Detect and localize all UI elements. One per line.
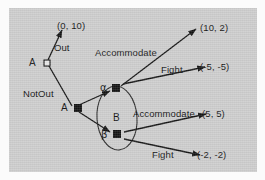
edge-notout	[49, 66, 72, 106]
action-notout: NotOut	[23, 89, 54, 99]
payoff-fight-top: (-5, -5)	[200, 62, 229, 72]
edge-a-to-alpha	[79, 91, 110, 105]
screenshot-canvas: (0, 10) Out A NotOut A α β B Accommodate…	[0, 0, 265, 180]
action-fight-top: Fight	[161, 65, 183, 75]
node-alpha[interactable]	[112, 84, 120, 92]
payoff-accommodate-bottom: (5, 5)	[202, 109, 225, 119]
node-label-beta: β	[101, 130, 107, 140]
action-accommodate-bottom: Accommodate	[133, 109, 195, 119]
node-a-second[interactable]	[74, 104, 82, 112]
player-label-a-second: A	[61, 103, 68, 113]
player-label-a-root: A	[29, 58, 36, 68]
node-a-root[interactable]	[44, 60, 50, 66]
node-beta[interactable]	[113, 130, 121, 138]
action-fight-bottom: Fight	[152, 150, 174, 160]
payoff-out: (0, 10)	[57, 21, 85, 31]
figure-plate: (0, 10) Out A NotOut A α β B Accommodate…	[9, 8, 257, 172]
payoff-fight-bottom: (-2, -2)	[197, 150, 226, 160]
action-accommodate-top: Accommodate	[95, 48, 157, 58]
action-out: Out	[54, 43, 70, 53]
payoff-accommodate-top: (10, 2)	[200, 23, 228, 33]
node-label-alpha: α	[100, 83, 107, 93]
information-set-label-b: B	[113, 113, 120, 123]
